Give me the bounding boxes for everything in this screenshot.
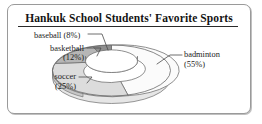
label-basketball-pct: (12%) — [22, 53, 84, 63]
label-badminton-name: badminton — [184, 50, 220, 59]
label-badminton: badminton (55%) — [184, 50, 220, 69]
label-baseball: baseball (8%) — [34, 31, 80, 41]
chart-area: baseball (8%) basketball (12%) soccer (2… — [8, 29, 251, 114]
title-underline — [18, 26, 238, 27]
label-baseball-text: baseball (8%) — [34, 31, 80, 40]
page-title: Hankuk School Students' Favorite Sports — [18, 12, 240, 24]
label-basketball: basketball (12%) — [22, 44, 84, 63]
chart-card: Hankuk School Students' Favorite Sports — [7, 4, 251, 114]
donut-hole — [86, 50, 138, 73]
label-soccer: soccer (25%) — [22, 72, 76, 91]
label-soccer-pct: (25%) — [22, 82, 76, 92]
label-badminton-pct: (55%) — [184, 60, 220, 70]
label-basketball-name: basketball — [50, 44, 84, 53]
label-soccer-name: soccer — [55, 72, 76, 81]
